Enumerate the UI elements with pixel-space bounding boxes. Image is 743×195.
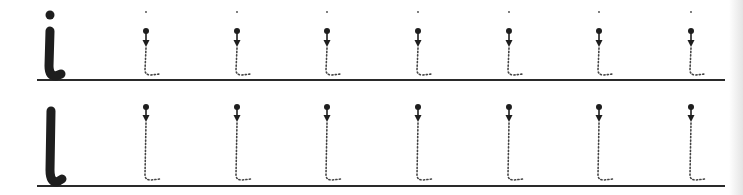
dot-marker: [598, 11, 600, 13]
scan-shadow: [729, 0, 743, 195]
trace-guide-i-4: [415, 11, 433, 75]
trace-guide-l-3: [324, 104, 342, 180]
dotted-trace-path: [598, 48, 613, 75]
arrow-down-icon: [506, 115, 513, 122]
model-letter-i: [46, 11, 62, 77]
arrow-down-icon: [688, 115, 695, 122]
dotted-trace-path: [508, 123, 523, 180]
trace-guide-l-7: [688, 104, 706, 180]
trace-guide-i-7: [688, 11, 706, 75]
dotted-trace-path: [508, 48, 523, 75]
arrow-down-icon: [143, 115, 150, 122]
trace-guide-i-3: [324, 11, 342, 75]
dotted-trace-path: [417, 123, 432, 180]
trace-guide-l-6: [596, 104, 614, 180]
dotted-trace-path: [326, 48, 341, 75]
dotted-trace-path: [417, 48, 432, 75]
dotted-trace-path: [690, 123, 705, 180]
arrow-down-icon: [234, 40, 241, 47]
arrow-down-icon: [143, 40, 150, 47]
letter-dot: [46, 11, 55, 20]
practice-row-i: [37, 11, 725, 81]
trace-guide-l-1: [143, 104, 161, 180]
dot-marker: [690, 11, 692, 13]
trace-guide-l-4: [415, 104, 433, 180]
arrow-down-icon: [415, 40, 422, 47]
worksheet-canvas: [0, 0, 743, 195]
arrow-down-icon: [415, 115, 422, 122]
dotted-trace-path: [236, 48, 251, 75]
trace-guide-l-2: [234, 104, 252, 180]
dot-marker: [145, 11, 147, 13]
arrow-down-icon: [324, 40, 331, 47]
dotted-trace-path: [690, 48, 705, 75]
model-letter-l: [50, 111, 62, 182]
arrow-down-icon: [506, 40, 513, 47]
dotted-trace-path: [145, 123, 160, 180]
dot-marker: [508, 11, 510, 13]
arrow-down-icon: [596, 40, 603, 47]
handwriting-worksheet: Handwriting practice: i and l i l: [0, 0, 743, 195]
trace-guide-i-2: [234, 11, 252, 75]
dot-marker: [417, 11, 419, 13]
arrow-down-icon: [324, 115, 331, 122]
dot-marker: [236, 11, 238, 13]
trace-guide-i-5: [506, 11, 524, 75]
practice-row-l: [37, 104, 725, 186]
dotted-trace-path: [145, 48, 160, 75]
dot-marker: [326, 11, 328, 13]
arrow-down-icon: [596, 115, 603, 122]
arrow-down-icon: [234, 115, 241, 122]
dotted-trace-path: [326, 123, 341, 180]
arrow-down-icon: [688, 40, 695, 47]
dotted-trace-path: [598, 123, 613, 180]
trace-guide-l-5: [506, 104, 524, 180]
dotted-trace-path: [236, 123, 251, 180]
trace-guide-i-6: [596, 11, 614, 75]
trace-guide-i-1: [143, 11, 161, 75]
